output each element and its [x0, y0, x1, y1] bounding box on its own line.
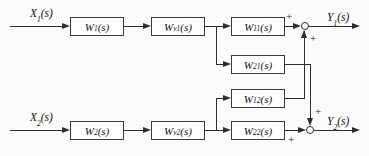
arrowhead-into-sum1 [293, 23, 301, 29]
w21-arg: (s) [261, 59, 273, 71]
w12-arg: (s) [261, 93, 273, 105]
wire-input-x2 [10, 130, 62, 131]
arrowhead-into-w21 [223, 61, 231, 67]
w1-sub: 1 [94, 24, 98, 33]
arrowhead-down-into-sum2 [307, 118, 313, 126]
w11-arg: (s) [260, 21, 272, 33]
block-w1: W1(s) [70, 17, 124, 36]
block-diagram-canvas: X1(s) X2(s) Y1(s) Y2(s) W1(s) Wv1(s) W11… [0, 0, 369, 156]
wire-branch-to-w12 [216, 98, 223, 99]
block-w11: W11(s) [231, 17, 285, 36]
wire-w21-down-to-sum2 [310, 64, 311, 119]
x2-base: X [30, 111, 37, 123]
wire-input-x1 [10, 26, 62, 27]
wire-wv2-to-w22 [205, 130, 223, 131]
sum-junction-2 [306, 126, 314, 134]
wire-w12-up-to-sum1 [304, 31, 305, 98]
arrowhead-into-w1 [62, 23, 70, 29]
arrowhead-output-y1 [352, 23, 360, 29]
wire-w22-to-sum2 [285, 130, 298, 131]
w2-base: W [85, 125, 94, 137]
block-w22: W22(s) [231, 121, 285, 140]
plus-sign-sum1-vertical: + [310, 33, 316, 43]
wv2-base: W [164, 125, 173, 137]
input-label-x1: X1(s) [30, 7, 53, 24]
w12-sub: 12 [253, 96, 261, 105]
w11-base: W [244, 21, 253, 33]
w22-arg: (s) [261, 125, 273, 137]
w21-base: W [244, 59, 253, 71]
wire-w11-to-sum1 [285, 26, 293, 27]
plus-sign-sum1-horizontal: + [286, 11, 292, 21]
wv1-sub: v1 [173, 24, 180, 33]
block-w2: W2(s) [70, 121, 124, 140]
wire-w2-to-wv2 [124, 130, 143, 131]
wire-wv1-branch-down [216, 26, 217, 64]
wv1-base: W [164, 21, 173, 33]
arrowhead-into-wv1 [143, 23, 151, 29]
wire-sum1-to-y1 [309, 26, 352, 27]
wire-wv1-to-w11 [205, 26, 223, 27]
block-wv1: Wv1(s) [151, 17, 205, 36]
sum-junction-1 [301, 22, 309, 30]
x1-sub: 1 [37, 15, 41, 24]
block-wv2: Wv2(s) [151, 121, 205, 140]
wire-w21-out [285, 64, 311, 65]
x1-base: X [30, 7, 37, 19]
x2-arg: (s) [41, 111, 53, 123]
w1-arg: (s) [98, 21, 110, 33]
wire-wv2-branch-up [216, 98, 217, 130]
w12-base: W [244, 93, 253, 105]
wv1-arg: (s) [180, 21, 192, 33]
w2-sub: 2 [94, 128, 98, 137]
y1-arg: (s) [337, 11, 349, 23]
block-w12: W12(s) [231, 89, 285, 108]
w1-base: W [85, 21, 94, 33]
arrowhead-into-wv2 [143, 127, 151, 133]
arrowhead-into-w11 [223, 23, 231, 29]
w11-sub: 11 [253, 24, 260, 33]
wire-branch-to-w21 [216, 64, 223, 65]
wv2-arg: (s) [180, 125, 192, 137]
arrowhead-into-w22 [223, 127, 231, 133]
w21-sub: 21 [253, 62, 261, 71]
arrowhead-up-into-sum1 [301, 30, 307, 38]
y2-arg: (s) [337, 115, 349, 127]
x1-arg: (s) [41, 7, 53, 19]
plus-sign-sum2-vertical: + [315, 106, 321, 116]
block-w21: W21(s) [231, 55, 285, 74]
arrowhead-into-sum2 [298, 127, 306, 133]
w22-base: W [244, 125, 253, 137]
x2-sub: 2 [37, 119, 41, 128]
w22-sub: 22 [253, 128, 261, 137]
arrowhead-into-w12 [223, 95, 231, 101]
arrowhead-output-y2 [352, 127, 360, 133]
input-label-x2: X2(s) [30, 111, 53, 128]
plus-sign-sum2-horizontal: + [288, 134, 294, 144]
wire-sum2-to-y2 [314, 130, 352, 131]
wire-w12-out [285, 98, 305, 99]
wv2-sub: v2 [173, 128, 180, 137]
w2-arg: (s) [98, 125, 110, 137]
wire-w1-to-wv1 [124, 26, 143, 27]
arrowhead-into-w2 [62, 127, 70, 133]
